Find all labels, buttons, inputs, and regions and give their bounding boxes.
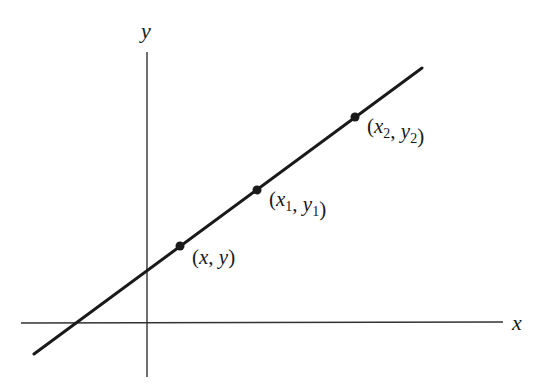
- x-axis-label: x: [511, 310, 522, 335]
- points-group: (x, y)(x1, y1)(x2, y2): [176, 113, 425, 270]
- point-x-y-label: (x, y): [192, 245, 235, 269]
- diagram-canvas: Figure x y (x, y)(x1, y1)(x2, y2): [0, 0, 546, 392]
- straight-line: [34, 68, 422, 354]
- point-x2-y2-label: (x2, y2): [367, 114, 424, 148]
- x-axis: [21, 322, 503, 323]
- coordinate-diagram: x y (x, y)(x1, y1)(x2, y2): [0, 0, 546, 392]
- point-x-y-marker: [176, 242, 185, 251]
- point-x2-y2-marker: [351, 113, 360, 122]
- point-x1-y1-label: (x1, y1): [269, 187, 326, 221]
- point-x1-y1-marker: [253, 186, 262, 195]
- y-axis-label: y: [139, 18, 151, 43]
